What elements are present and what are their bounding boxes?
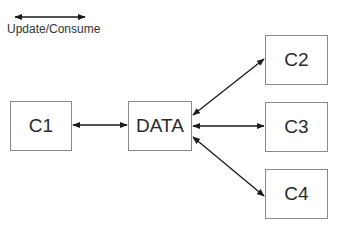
node-data-label: DATA [136,115,184,137]
node-c2: C2 [265,35,328,85]
node-c1-label: C1 [29,115,53,137]
node-c4-label: C4 [284,183,308,205]
node-data: DATA [128,101,192,151]
legend-label: Update/Consume [7,22,100,36]
node-c2-label: C2 [284,49,308,71]
node-c3-label: C3 [284,116,308,138]
node-c1: C1 [10,101,72,151]
node-c4: C4 [265,169,328,219]
edge-data-c2 [193,59,264,115]
edge-data-c4 [193,137,264,196]
node-c3: C3 [265,102,328,152]
